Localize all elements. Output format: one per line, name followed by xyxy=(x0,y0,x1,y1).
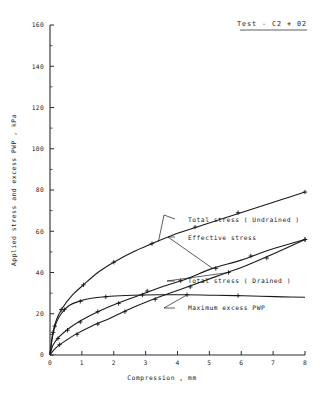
data-point-marker xyxy=(303,190,307,194)
data-point-marker xyxy=(193,225,197,229)
x-tick-label: 1 xyxy=(80,359,84,366)
x-tick-label: 0 xyxy=(48,359,52,366)
x-tick-label: 8 xyxy=(303,359,307,366)
y-tick-label: 100 xyxy=(32,145,44,152)
data-point-marker xyxy=(53,324,57,328)
y-tick-label: 0 xyxy=(40,351,44,358)
chart-title: Test - C2 + 02 xyxy=(237,20,307,28)
series-0 xyxy=(50,190,307,355)
x-tick-label: 7 xyxy=(271,359,275,366)
x-tick-label: 2 xyxy=(112,359,116,366)
annotation-label: Maximum excess PWP xyxy=(188,304,265,311)
data-point-marker xyxy=(96,309,100,313)
y-tick-label: 160 xyxy=(32,21,44,28)
y-tick-label: 20 xyxy=(36,310,44,317)
annotation-leader xyxy=(164,295,187,308)
data-point-marker xyxy=(104,295,108,299)
x-axis-label: Compression , mm xyxy=(127,374,196,382)
annotation-label: Total stress ( Undrained ) xyxy=(188,216,300,223)
annotation-label: Total stress ( Drained ) xyxy=(188,277,291,284)
data-point-marker xyxy=(303,237,307,241)
y-tick-label: 40 xyxy=(36,269,44,276)
chart-figure: 020406080100120140160012345678Compressio… xyxy=(0,0,320,400)
y-tick-label: 80 xyxy=(36,186,44,193)
y-axis-label: Applied stress and excess PWP , kPa xyxy=(10,114,18,266)
data-point-marker xyxy=(236,293,240,297)
x-tick-label: 6 xyxy=(239,359,243,366)
series-line xyxy=(50,295,305,355)
y-tick-label: 60 xyxy=(36,228,44,235)
annotation-label: Effective stress xyxy=(188,234,257,241)
x-tick-label: 3 xyxy=(144,359,148,366)
y-tick-label: 140 xyxy=(32,63,44,70)
x-tick-label: 4 xyxy=(175,359,179,366)
data-point-marker xyxy=(78,299,82,303)
x-tick-label: 5 xyxy=(207,359,211,366)
y-tick-label: 120 xyxy=(32,104,44,111)
series-3 xyxy=(50,293,305,355)
data-point-marker xyxy=(150,241,154,245)
annotation-leader xyxy=(168,237,213,268)
